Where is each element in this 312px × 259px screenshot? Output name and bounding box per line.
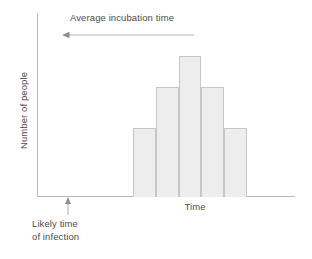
histogram-bar [179,56,202,197]
left-arrow-icon [62,30,194,40]
likely-time-of-infection-annotation: Likely time of infection [32,197,142,255]
histogram-bar [201,87,224,197]
average-incubation-time-label: Average incubation time [70,12,174,23]
y-axis-line [37,13,38,197]
x-axis-label: Time [150,201,240,212]
up-arrow-icon [62,197,74,215]
likely-time-of-infection-label: Likely time of infection [32,217,142,243]
incubation-time-histogram-figure: Number of people Time Average incubation… [0,0,312,259]
histogram-bar [156,87,179,197]
histogram-bar [224,128,247,197]
infection-label-line-1: Likely time [32,217,142,230]
histogram-bars [133,40,247,197]
infection-label-line-2: of infection [32,230,142,243]
y-axis-label: Number of people [18,56,29,166]
histogram-bar [133,128,156,197]
average-incubation-time-annotation: Average incubation time [62,12,197,42]
